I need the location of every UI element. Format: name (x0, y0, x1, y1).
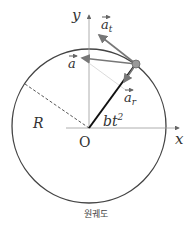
origin-label: O (79, 134, 90, 150)
particle (132, 60, 140, 68)
diagram-canvas: y x O R bt2 a at ar (0, 0, 192, 227)
y-axis-label: y (71, 6, 81, 24)
vector-at-label: at (101, 17, 113, 34)
vector-a-label: a (68, 56, 76, 71)
vector-a-tangential (99, 35, 136, 64)
x-axis-label: x (175, 130, 184, 148)
circular-motion-diagram: y x O R bt2 a at ar 원궤도 (0, 0, 192, 227)
diagram-caption: 원궤도 (0, 207, 192, 220)
angle-label: bt2 (103, 112, 124, 129)
vector-ar-label: ar (124, 90, 137, 107)
radius-label: R (32, 115, 44, 131)
